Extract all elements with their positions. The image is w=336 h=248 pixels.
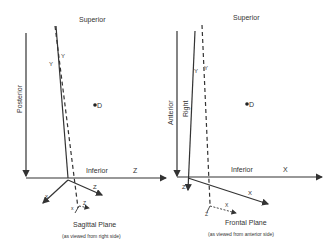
inferior-label: Inferior bbox=[86, 167, 108, 174]
z-axis-label: Z bbox=[133, 167, 138, 174]
right-y-axis-line bbox=[188, 31, 195, 190]
z-small-label: Z bbox=[93, 184, 97, 190]
x-small-label: x bbox=[45, 193, 48, 199]
inferior-label-right: Inferior bbox=[231, 166, 253, 173]
z-tiny-label: Z bbox=[83, 200, 86, 206]
posterior-label: Posterior bbox=[16, 84, 23, 113]
point-d-label: D bbox=[97, 102, 102, 109]
z-tiny-label-right: Z bbox=[205, 211, 208, 217]
right-label: Right bbox=[182, 101, 190, 117]
x-axis-label: X bbox=[283, 166, 288, 173]
sagittal-title: Sagittal Plane bbox=[73, 221, 116, 229]
x-tiny-label: x bbox=[71, 205, 74, 211]
y-solid-label: Y bbox=[49, 61, 53, 67]
point-d-label-right: D bbox=[249, 101, 254, 108]
y-dashed-label: Y bbox=[61, 53, 65, 59]
z-tiny-axis-line bbox=[79, 206, 89, 208]
z-small-axis-line bbox=[68, 180, 102, 195]
coordinate-planes-diagram: Superior Posterior Inferior Z Y Y D x Z … bbox=[0, 0, 336, 248]
frontal-title: Frontal Plane bbox=[225, 219, 267, 226]
x-small-axis-line bbox=[43, 180, 68, 203]
y-solid-label-right: Y bbox=[194, 68, 198, 74]
superior-label: Superior bbox=[79, 16, 106, 24]
superior-label-right: Superior bbox=[233, 14, 260, 22]
anterior-label: Anterior bbox=[167, 100, 174, 125]
sagittal-subtitle: (as viewed from right side) bbox=[62, 233, 121, 239]
x-tiny-axis-line bbox=[210, 206, 236, 213]
x-tiny-axis-line bbox=[75, 206, 79, 213]
x-slanted-axis-line bbox=[188, 178, 268, 204]
diagram-canvas: Superior Posterior Inferior Z Y Y D x Z … bbox=[0, 0, 336, 248]
x-tiny-label-right: X bbox=[225, 202, 229, 208]
y-dashed-label-right: Y bbox=[204, 65, 208, 71]
z-small-label-right: Z bbox=[182, 184, 186, 190]
frontal-panel bbox=[177, 25, 322, 213]
x-small-label-right: X bbox=[248, 190, 252, 196]
frontal-subtitle: (as viewed from anterior side) bbox=[208, 231, 274, 237]
